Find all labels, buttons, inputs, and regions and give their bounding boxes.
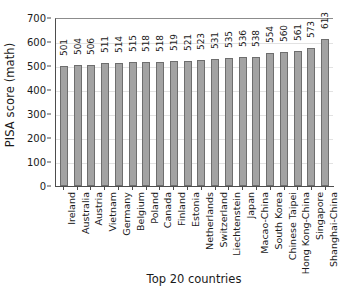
bar-slot: 561 [291, 19, 305, 186]
bar [60, 66, 68, 186]
bar-slot: 535 [222, 19, 236, 186]
x-tick-slot: Singapore [304, 187, 318, 265]
x-tick-mark [284, 187, 285, 190]
bar-value-label: 536 [238, 30, 247, 47]
x-tick-mark [201, 187, 202, 190]
x-tick-slot: Austria [84, 187, 98, 265]
y-tick-mark [47, 90, 51, 91]
bar [115, 63, 123, 186]
y-tick-label: 200 [27, 133, 46, 144]
y-tick-mark [47, 66, 51, 67]
x-axis-title: Top 20 countries [55, 272, 333, 286]
bar-slot: 613 [318, 19, 332, 186]
y-tick-mark [47, 42, 51, 43]
bar-value-label: 561 [293, 24, 302, 41]
bar [307, 48, 315, 186]
x-tick-slot: Finland [166, 187, 180, 265]
bar-slot: 501 [57, 19, 71, 186]
x-tick-mark [325, 187, 326, 190]
x-tick-slot: Vietnam [97, 187, 111, 265]
bar-value-label: 501 [59, 39, 68, 56]
bar [197, 60, 205, 186]
x-tick-mark [146, 187, 147, 190]
bar-value-label: 519 [169, 34, 178, 51]
bar-value-label: 521 [183, 34, 192, 51]
x-tick-mark [256, 187, 257, 190]
bar-slot: 521 [181, 19, 195, 186]
bar [87, 65, 95, 186]
y-tick-mark [47, 138, 51, 139]
y-tick-label: 400 [27, 85, 46, 96]
x-tick-slot: Estonia [180, 187, 194, 265]
bar-slot: 573 [305, 19, 319, 186]
bar-value-label: 515 [128, 35, 137, 52]
x-tick-mark [159, 187, 160, 190]
bar-value-label: 511 [101, 36, 110, 53]
bar-value-label: 573 [307, 21, 316, 38]
y-tick-label: 0 [40, 181, 46, 192]
bar-slot: 514 [112, 19, 126, 186]
x-tick-label: Shanghai-China [329, 192, 339, 267]
bar-slot: 518 [140, 19, 154, 186]
x-tick-slot: Liechtenstein [222, 187, 236, 265]
x-tick-mark [132, 187, 133, 190]
bar-value-label: 518 [156, 35, 165, 52]
bar-value-label: 531 [211, 31, 220, 48]
bar-value-label: 560 [279, 25, 288, 42]
bar [184, 61, 192, 186]
bar-slot: 560 [277, 19, 291, 186]
x-tick-slot: Netherlands [194, 187, 208, 265]
bar-slot: 538 [250, 19, 264, 186]
bar-slot: 536 [236, 19, 250, 186]
bar-slot: 531 [208, 19, 222, 186]
plot-area: 5015045065115145155185185195215235315355… [55, 18, 333, 186]
x-tick-slot: Canada [153, 187, 167, 265]
y-tick-mark [47, 186, 51, 187]
x-tick-mark [187, 187, 188, 190]
bar [266, 53, 274, 186]
y-axis-title: PISA score (math) [0, 0, 20, 190]
x-tick-mark [118, 187, 119, 190]
bar [101, 63, 109, 186]
bar-value-label: 554 [266, 26, 275, 43]
pisa-score-bar-chart: PISA score (math) 0100200300400500600700… [0, 0, 340, 302]
bar-value-label: 506 [87, 37, 96, 54]
bar-slot: 519 [167, 19, 181, 186]
bar [280, 52, 288, 186]
bar-slot: 515 [126, 19, 140, 186]
x-tick-mark [215, 187, 216, 190]
x-tick-mark [90, 187, 91, 190]
bar [294, 51, 302, 186]
x-tick-mark [173, 187, 174, 190]
x-tick-slot: Poland [139, 187, 153, 265]
bar [142, 62, 150, 186]
x-axis-tick-labels: IrelandAustraliaAustriaVietnamGermanyBel… [55, 187, 333, 265]
x-tick-mark [63, 187, 64, 190]
x-tick-slot: Macao-China [249, 187, 263, 265]
bar [74, 65, 82, 186]
x-tick-mark [311, 187, 312, 190]
bar-value-label: 538 [252, 30, 261, 47]
bar-slot: 506 [85, 19, 99, 186]
bar-slot: 554 [263, 19, 277, 186]
bar-value-label: 613 [321, 12, 330, 29]
x-tick-slot: Shanghai-China [318, 187, 332, 265]
y-axis-tick-labels: 0100200300400500600700 [18, 0, 51, 302]
x-tick-slot: Chinese Taipei [277, 187, 291, 265]
bar-slot: 504 [71, 19, 85, 186]
y-tick-label: 100 [27, 157, 46, 168]
bar [170, 61, 178, 186]
bar-slot: 518 [153, 19, 167, 186]
bar-value-label: 535 [224, 31, 233, 48]
x-tick-mark [77, 187, 78, 190]
bar-value-label: 504 [73, 38, 82, 55]
x-tick-slot: Germany [111, 187, 125, 265]
y-tick-mark [47, 114, 51, 115]
bar [239, 57, 247, 186]
y-axis-title-text: PISA score (math) [3, 43, 17, 148]
bar [211, 59, 219, 186]
y-tick-label: 300 [27, 109, 46, 120]
bar [129, 62, 137, 186]
bar [225, 58, 233, 186]
x-tick-mark [297, 187, 298, 190]
